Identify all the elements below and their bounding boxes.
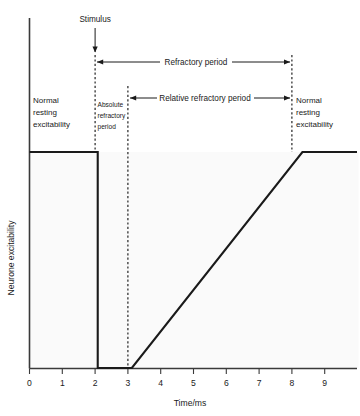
x-axis-ticks — [30, 369, 325, 375]
x-tick-label-5: 5 — [191, 378, 196, 388]
absolute-refractory-period-block: Absolute refractory period — [98, 101, 127, 131]
relative-refractory-period-annotation: Relative refractory period — [130, 94, 290, 103]
arp-line-2: refractory — [98, 112, 127, 120]
normal-resting-excitability-left-block: Normal resting excitability — [33, 96, 70, 129]
nre-left-line-3: excitability — [33, 120, 70, 129]
nre-right-line-3: excitability — [296, 120, 333, 129]
chart-svg: 0 1 2 3 4 5 6 7 8 9 Time/ms Neurone exci… — [0, 0, 360, 416]
nre-left-line-2: resting — [33, 108, 57, 117]
stimulus-label: Stimulus — [79, 15, 110, 24]
plot-background — [30, 152, 359, 368]
x-tick-label-3: 3 — [126, 378, 131, 388]
x-tick-label-1: 1 — [60, 378, 65, 388]
x-tick-label-4: 4 — [158, 378, 163, 388]
x-axis-title: Time/ms — [174, 398, 207, 408]
x-axis-tick-labels: 0 1 2 3 4 5 6 7 8 9 — [27, 378, 327, 388]
relative-refractory-period-label: Relative refractory period — [159, 94, 251, 103]
normal-resting-excitability-right-block: Normal resting excitability — [296, 96, 333, 129]
refractory-period-annotation: Refractory period — [97, 58, 290, 67]
x-tick-label-8: 8 — [290, 378, 295, 388]
arp-line-3: period — [98, 123, 117, 131]
x-tick-label-2: 2 — [93, 378, 98, 388]
nre-right-line-2: resting — [296, 108, 320, 117]
x-tick-label-9: 9 — [322, 378, 327, 388]
stimulus-annotation: Stimulus — [79, 15, 110, 52]
nre-left-line-1: Normal — [33, 96, 59, 105]
arp-line-1: Absolute — [98, 101, 124, 108]
x-tick-label-6: 6 — [224, 378, 229, 388]
x-tick-label-0: 0 — [27, 378, 32, 388]
x-tick-label-7: 7 — [257, 378, 262, 388]
nre-right-line-1: Normal — [296, 96, 322, 105]
y-axis-title: Neurone excitability — [6, 220, 16, 296]
refractory-period-label: Refractory period — [165, 58, 228, 67]
neurone-excitability-figure: 0 1 2 3 4 5 6 7 8 9 Time/ms Neurone exci… — [0, 0, 360, 416]
